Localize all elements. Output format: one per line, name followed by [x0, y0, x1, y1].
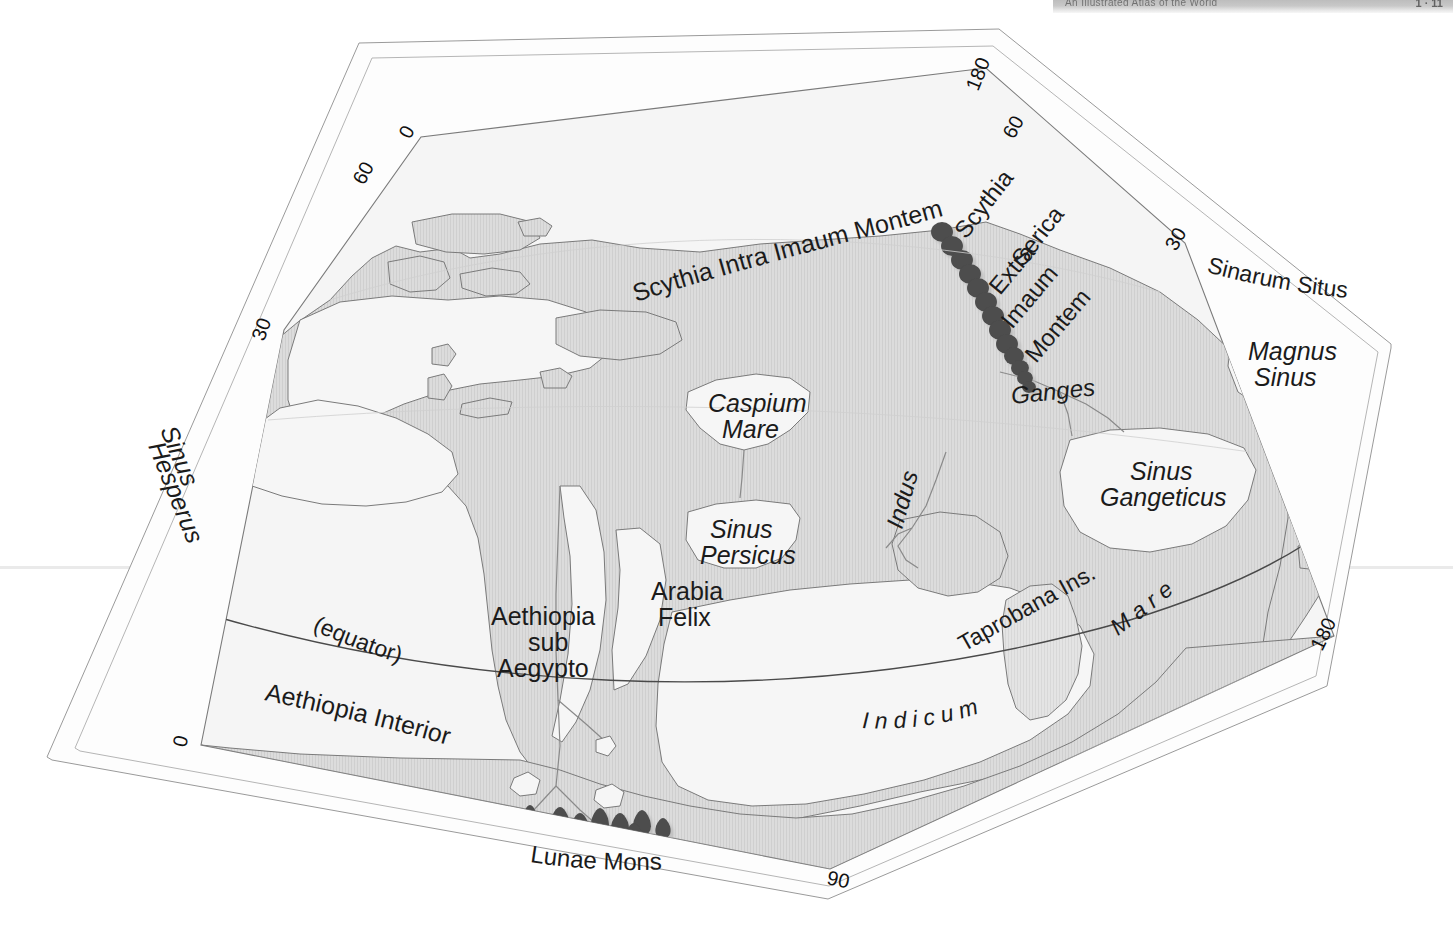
water-label-sinus-persicus-persicus: Persicus — [700, 541, 796, 569]
water-label-sinus-gangeticus-gangeticus: Gangeticus — [1100, 483, 1226, 511]
island-scandinavia — [412, 214, 540, 254]
graticule-label-lon-90-bottom: 90 — [825, 866, 851, 892]
region-label-aegypto: Aegypto — [497, 654, 589, 682]
atlas-page: An Illustrated Atlas of the World 1 · 11 — [0, 0, 1453, 930]
region-label-sub: sub — [528, 628, 568, 656]
region-label-aethiopia: Aethiopia — [491, 602, 595, 630]
water-label-sinus-persicus-sinus: Sinus — [710, 515, 773, 543]
water-label-magnus: Magnus — [1248, 337, 1337, 365]
region-label-arabia: Arabia — [651, 577, 723, 605]
island-britain — [388, 256, 450, 292]
region-label-felix: Felix — [658, 603, 711, 631]
water-label-caspium: Caspium — [708, 389, 807, 417]
water-label-mare-caspium: Mare — [722, 415, 779, 443]
landmass-anatolia — [556, 310, 682, 360]
water-label-sinus-gangeticus-sinus: Sinus — [1130, 457, 1193, 485]
water-label-magnus-sinus: Sinus — [1254, 363, 1317, 391]
ptolemaic-world-map: Scythia Intra Imaum Montem Aethiopia Int… — [0, 0, 1453, 930]
